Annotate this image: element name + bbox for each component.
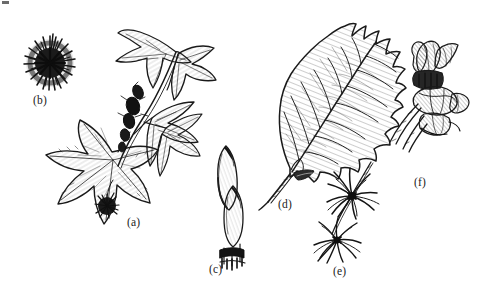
panel-label-e: (e) [333,265,346,277]
panel-c-winter-buds [218,146,245,270]
illustration-plate: (a) (b) (c) (d) (e) (f) [0,0,477,297]
panel-e-ribbon-flowers [314,162,379,263]
panel-d-broad-leaf [259,24,406,210]
panel-f-seed-capsules [390,41,469,152]
panel-label-c: (c) [209,263,222,275]
panel-label-d: (d) [278,198,292,210]
botanical-artwork [0,0,477,297]
panel-label-b: (b) [33,94,47,106]
panel-label-f: (f) [414,176,426,188]
panel-label-a: (a) [127,216,140,228]
panel-b-spiny-fruit [24,34,75,90]
